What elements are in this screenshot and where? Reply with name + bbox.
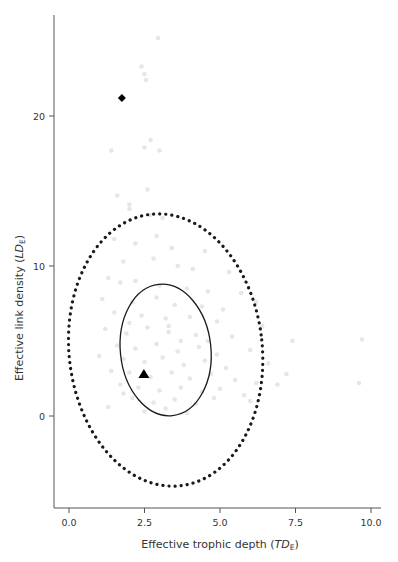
data-point <box>133 279 138 284</box>
data-point <box>357 381 362 386</box>
data-point <box>178 339 183 344</box>
data-point <box>248 399 253 404</box>
data-point <box>203 358 208 363</box>
data-point <box>172 303 177 308</box>
data-point <box>166 330 171 335</box>
data-point <box>181 363 186 368</box>
data-point <box>109 369 114 374</box>
data-point <box>127 207 132 212</box>
x-tick-label: 10.0 <box>360 517 381 528</box>
data-point <box>109 148 114 153</box>
data-point <box>127 370 132 375</box>
data-point <box>230 334 235 339</box>
outer-dotted-ellipse <box>55 204 276 496</box>
data-point <box>144 78 149 83</box>
data-point <box>118 382 123 387</box>
data-point <box>290 339 295 344</box>
data-point <box>188 376 193 381</box>
data-point <box>175 264 180 269</box>
data-point <box>197 345 202 350</box>
data-point <box>97 354 102 359</box>
data-point <box>106 405 111 410</box>
data-point <box>154 342 159 347</box>
data-point <box>139 313 144 318</box>
data-point <box>221 307 226 312</box>
data-point <box>100 297 105 302</box>
data-point <box>194 333 199 338</box>
x-axis: 0.02.55.07.510.0 Effective trophic depth… <box>54 508 382 552</box>
x-tick-label: 0.0 <box>61 517 76 528</box>
data-point <box>103 327 108 332</box>
data-point <box>115 343 120 348</box>
data-point <box>169 370 174 375</box>
data-point <box>160 355 165 360</box>
data-point <box>191 267 196 272</box>
ellipses <box>55 204 276 496</box>
data-point <box>239 291 244 296</box>
x-tick-label: 7.5 <box>288 517 303 528</box>
data-point <box>127 321 132 326</box>
data-point <box>127 202 132 207</box>
data-point <box>178 385 183 390</box>
data-point <box>142 360 147 365</box>
data-point <box>266 361 271 366</box>
y-axis-title: Effective link density (LDE) <box>13 235 27 381</box>
data-point <box>157 388 162 393</box>
y-ticks: 01020 <box>33 111 54 422</box>
data-point <box>115 193 120 198</box>
x-tick-label: 5.0 <box>212 517 227 528</box>
data-point <box>166 324 171 329</box>
data-point <box>284 372 289 377</box>
x-ticks: 0.02.55.07.510.0 <box>61 508 381 528</box>
data-point <box>160 216 165 221</box>
data-point <box>224 366 229 371</box>
data-point <box>151 400 156 405</box>
data-point <box>121 391 126 396</box>
y-axis: 01020 Effective link density (LDE) <box>13 15 54 508</box>
data-point <box>142 409 147 414</box>
background-points <box>97 36 364 416</box>
data-point <box>163 316 168 321</box>
data-point <box>133 346 138 351</box>
data-point <box>248 348 253 353</box>
data-point <box>203 249 208 254</box>
data-point <box>242 393 247 398</box>
data-point <box>156 36 161 41</box>
scatter-chart: 01020 Effective link density (LDE) 0.02.… <box>0 0 398 562</box>
data-point <box>275 382 280 387</box>
data-point <box>148 375 153 380</box>
data-point <box>215 319 220 324</box>
data-point <box>151 256 156 261</box>
diamond-marker-icon <box>118 94 126 102</box>
inner-solid-ellipse <box>114 280 218 421</box>
x-axis-title: Effective trophic depth (TDE) <box>141 538 298 552</box>
data-point <box>112 310 117 315</box>
x-tick-label: 2.5 <box>137 517 152 528</box>
data-point <box>148 138 153 143</box>
data-point <box>145 325 150 330</box>
data-point <box>200 304 205 309</box>
data-point <box>130 396 135 401</box>
data-point <box>106 276 111 281</box>
data-point <box>145 187 150 192</box>
y-tick-label: 0 <box>39 411 45 422</box>
data-point <box>154 295 159 300</box>
data-point <box>157 148 162 153</box>
data-point <box>136 385 141 390</box>
data-point <box>124 331 129 336</box>
data-point <box>118 280 123 285</box>
data-point <box>215 352 220 357</box>
data-point <box>233 378 238 383</box>
data-point <box>184 286 189 291</box>
data-point <box>142 145 147 150</box>
data-point <box>112 237 117 242</box>
data-point <box>254 381 259 386</box>
data-point <box>133 241 138 246</box>
data-point <box>206 289 211 294</box>
y-tick-label: 10 <box>33 261 45 272</box>
data-point <box>163 406 168 411</box>
data-point <box>360 337 365 342</box>
data-point <box>139 64 144 69</box>
data-point <box>169 246 174 251</box>
data-point <box>175 349 180 354</box>
